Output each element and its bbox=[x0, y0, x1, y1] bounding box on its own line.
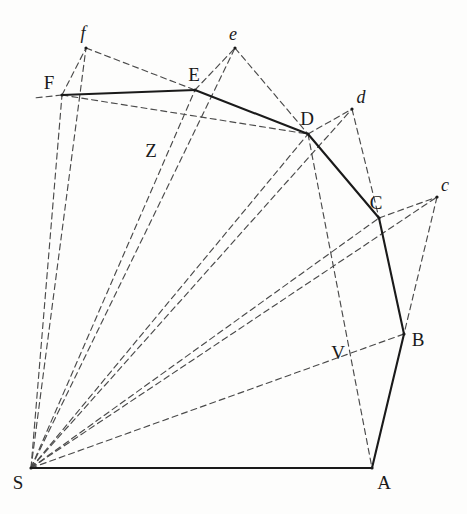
chord-c-B bbox=[404, 197, 437, 334]
point-label-B: B bbox=[412, 330, 425, 349]
vertex-dots bbox=[29, 46, 438, 469]
point-label-V: V bbox=[331, 343, 345, 362]
point-label-E: E bbox=[188, 65, 200, 84]
stub-left-of-F bbox=[34, 95, 62, 98]
ray-S-C bbox=[31, 218, 379, 468]
edge-B-C bbox=[379, 218, 404, 334]
edge-E-F bbox=[62, 90, 195, 95]
vertex-dot-C bbox=[377, 216, 380, 219]
solid-polygon-edges bbox=[31, 90, 404, 468]
vertex-dot-S bbox=[29, 466, 32, 469]
ray-S-d bbox=[31, 109, 352, 468]
chord-e-D bbox=[235, 48, 308, 134]
vertex-dot-d bbox=[350, 107, 353, 110]
vertex-dot-E bbox=[193, 88, 196, 91]
point-label-e: e bbox=[229, 25, 237, 43]
dashed-construction-lines bbox=[31, 48, 437, 468]
chord-C-c bbox=[379, 197, 437, 218]
point-label-S: S bbox=[13, 473, 24, 492]
vertex-dot-B bbox=[402, 332, 405, 335]
edge-A-B bbox=[372, 334, 404, 468]
point-label-D: D bbox=[300, 109, 314, 128]
ray-S-c bbox=[31, 197, 437, 468]
point-label-F: F bbox=[44, 73, 55, 92]
point-label-d: d bbox=[357, 88, 366, 106]
point-label-c: c bbox=[441, 176, 449, 194]
chord-f-E bbox=[86, 48, 195, 90]
vertex-dot-e bbox=[233, 46, 236, 49]
ray-S-e bbox=[31, 48, 235, 468]
chord-D-A bbox=[308, 134, 372, 468]
ray-S-f bbox=[31, 48, 86, 468]
chord-F-D bbox=[62, 95, 308, 134]
point-label-Z: Z bbox=[145, 141, 157, 160]
chord-D-d bbox=[308, 109, 352, 134]
vertex-dot-c bbox=[435, 195, 438, 198]
vertex-dot-A bbox=[370, 466, 373, 469]
point-label-f: f bbox=[80, 24, 85, 42]
point-label-C: C bbox=[370, 193, 383, 212]
vertex-dot-f bbox=[84, 46, 87, 49]
ray-S-F bbox=[31, 95, 62, 468]
vertex-dot-D bbox=[306, 132, 309, 135]
edge-C-D bbox=[308, 134, 379, 218]
ray-S-B bbox=[31, 334, 404, 468]
geometry-figure: SABCDEFcdefZV bbox=[0, 0, 467, 514]
point-label-A: A bbox=[377, 473, 391, 492]
figure-canvas bbox=[0, 0, 467, 514]
edge-D-E bbox=[195, 90, 308, 134]
vertex-dot-F bbox=[60, 93, 63, 96]
chord-E-e bbox=[195, 48, 235, 90]
